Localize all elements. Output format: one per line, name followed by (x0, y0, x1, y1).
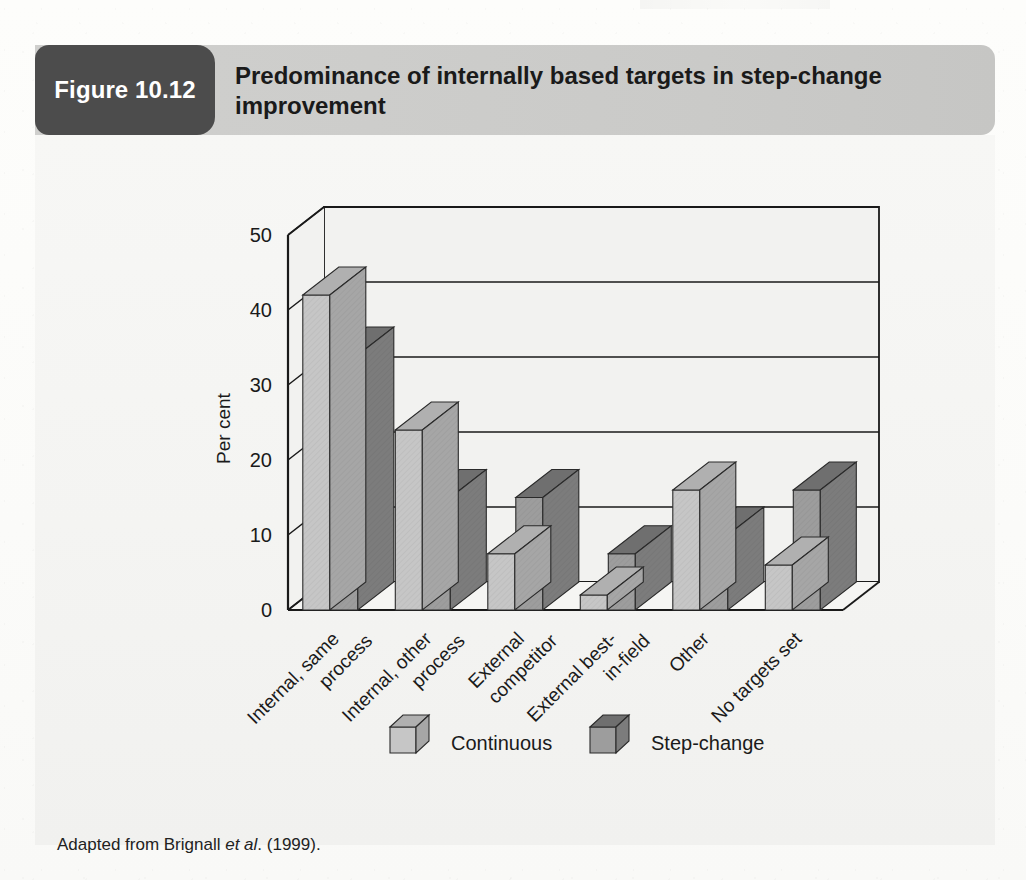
y-tick-label-0: 0 (261, 599, 272, 621)
bar-chart: 01020304050Per centInternal, sameprocess… (35, 135, 995, 845)
y-tick-label-30: 30 (250, 374, 272, 396)
figure-header: Figure 10.12 Predominance of internally … (35, 45, 995, 135)
figure-title: Predominance of internally based targets… (235, 61, 975, 122)
x-axis-label-line: Other (665, 628, 714, 677)
x-axis-label-5: No targets set (707, 627, 806, 726)
x-axis-label-4: Other (665, 628, 714, 677)
legend-label-0: Continuous (451, 732, 552, 754)
y-tick-label-10: 10 (250, 524, 272, 546)
figure-source-caption: Adapted from Brignall et al. (1999). (57, 835, 321, 855)
y-axis-title: Per cent (213, 392, 234, 463)
legend-swatch-front-1 (590, 727, 616, 753)
y-tick-label-40: 40 (250, 299, 272, 321)
legend-label-1: Step-change (651, 732, 764, 754)
figure-number-badge: Figure 10.12 (35, 45, 215, 135)
chart-area: 01020304050Per centInternal, sameprocess… (35, 135, 995, 845)
y-tick-label-50: 50 (250, 224, 272, 246)
x-axis-label-line: No targets set (707, 627, 806, 726)
legend-swatch-front-0 (390, 727, 416, 753)
caption-suffix: . (1999). (257, 835, 320, 854)
figure-number-label: Figure 10.12 (54, 76, 195, 104)
x-axis-label-0: Internal, sameprocess (243, 612, 376, 745)
figure-container: Figure 10.12 Predominance of internally … (35, 45, 995, 845)
y-tick-label-20: 20 (250, 449, 272, 471)
caption-italic: et al (225, 835, 257, 854)
x-axis-label-3: External best-in-field (523, 612, 654, 743)
scan-artifact (640, 0, 830, 9)
caption-prefix: Adapted from Brignall (57, 835, 225, 854)
